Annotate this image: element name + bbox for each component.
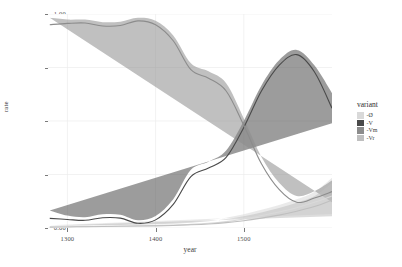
- legend-item[interactable]: -Vm: [357, 127, 402, 134]
- legend-item-label: -V: [367, 120, 373, 127]
- x-tick-mark: [244, 228, 245, 232]
- x-tick-mark: [156, 228, 157, 232]
- legend-swatch: [357, 127, 364, 134]
- legend: variant -Ø-V-Vm-Vr: [357, 100, 402, 142]
- legend-item-label: -Vm: [367, 127, 378, 134]
- legend-title: variant: [357, 100, 402, 109]
- x-tick-label: 1400: [149, 235, 163, 242]
- legend-item-label: -Ø: [367, 112, 373, 119]
- legend-swatch: [357, 135, 364, 142]
- plot-svg: [48, 14, 332, 228]
- y-tick-mark: [45, 228, 49, 229]
- legend-item[interactable]: -V: [357, 120, 402, 127]
- legend-item-label: -Vr: [367, 135, 375, 142]
- legend-swatch: [357, 112, 364, 119]
- legend-swatch: [357, 120, 364, 127]
- x-tick-label: 1300: [60, 235, 74, 242]
- y-axis-title: rate: [2, 102, 10, 113]
- legend-items: -Ø-V-Vm-Vr: [357, 112, 402, 142]
- legend-item[interactable]: -Vr: [357, 135, 402, 142]
- confidence-ribbons: [50, 18, 332, 226]
- x-axis-title: year: [184, 245, 197, 254]
- x-tick-mark: [67, 228, 68, 232]
- chart-container: rate 0.000.250.500.751.00 130014001500 y…: [0, 0, 402, 267]
- legend-item[interactable]: -Ø: [357, 112, 402, 119]
- plot-panel: [48, 14, 332, 228]
- x-tick-label: 1500: [237, 235, 251, 242]
